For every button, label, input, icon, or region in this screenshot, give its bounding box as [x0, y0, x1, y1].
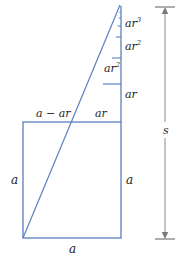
label-ar-squared-lower: ar2 — [104, 63, 120, 74]
label-a-left: a — [11, 174, 18, 186]
diagram-canvas — [0, 0, 185, 264]
label-ar-cubed: ar3 — [125, 18, 141, 29]
s-measure-arrow — [155, 7, 175, 239]
s-arrowhead-up — [162, 7, 168, 14]
label-a-minus-ar: a − ar — [36, 108, 71, 119]
label-s: s — [163, 125, 169, 136]
square-shape — [23, 122, 121, 238]
label-a-right: a — [126, 174, 133, 186]
square-outline — [23, 122, 121, 238]
label-a-bottom: a — [69, 243, 76, 255]
label-ar: ar — [125, 89, 137, 100]
s-arrowhead-down — [162, 232, 168, 239]
geometric-series-diagram: ar3 ar2 ar2 ar a − ar ar a a a s — [0, 0, 185, 264]
label-ar-top-edge: ar — [95, 108, 107, 119]
label-ar-squared-upper: ar2 — [125, 41, 141, 52]
